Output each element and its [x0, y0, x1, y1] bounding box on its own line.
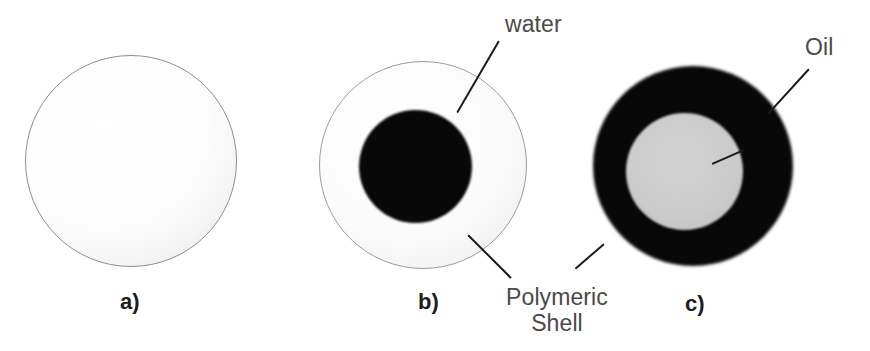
leader-line-oil-0: [767, 68, 809, 114]
figure-canvas: a) b) c) water Polymeric Shell Oil: [0, 0, 870, 351]
panel-b-water-core: [359, 110, 472, 223]
panel-b-letter: b): [418, 291, 439, 313]
panel-c-polymeric-core: [626, 113, 743, 230]
label-water: water: [505, 11, 562, 37]
leader-line-polymeric-shell-c-0: [574, 243, 604, 270]
panel-a-letter: a): [120, 291, 140, 313]
label-polymeric-shell: Polymeric Shell: [498, 284, 616, 336]
label-oil: Oil: [805, 34, 833, 60]
panel-c-letter: c): [685, 293, 705, 315]
panel-a-outer-sphere: [25, 55, 237, 267]
